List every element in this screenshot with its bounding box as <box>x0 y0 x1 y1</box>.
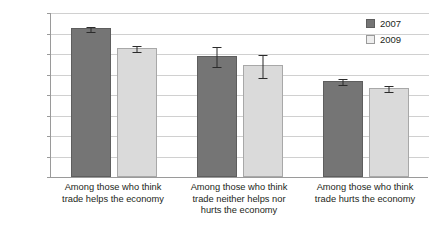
error-bar-2009-group1 <box>117 46 157 52</box>
error-bar-cap-lower <box>213 67 222 68</box>
error-bar-2007-group3 <box>323 79 363 86</box>
error-bar-cap-lower <box>385 92 394 93</box>
y-axis-tick <box>47 116 51 117</box>
legend-item-2009: 2009 <box>366 34 401 45</box>
bar-2007-group3 <box>323 81 363 177</box>
category-label-line: Among those who think <box>302 182 428 194</box>
gridline <box>51 13 429 14</box>
error-bar-line <box>263 55 264 78</box>
y-axis-tick <box>47 136 51 137</box>
error-bar-2009-group2 <box>243 55 283 78</box>
y-axis-tick <box>47 157 51 158</box>
y-axis-tick <box>47 177 51 178</box>
bar-2007-group1 <box>71 28 111 177</box>
bar-2007-group2 <box>197 56 237 177</box>
category-label-1: Among those who thinktrade helps the eco… <box>50 182 176 205</box>
bar-2009-group3 <box>369 88 409 177</box>
y-axis-tick <box>47 95 51 96</box>
legend-swatch-2009 <box>366 35 375 44</box>
category-label-line: hurts the economy <box>176 205 302 217</box>
error-bar-cap-upper <box>133 46 142 47</box>
bar-2009-group2 <box>243 65 283 177</box>
error-bar-cap-lower <box>87 32 96 33</box>
error-bar-cap-lower <box>339 85 348 86</box>
error-bar-2007-group1 <box>71 27 111 32</box>
legend-label-2009: 2009 <box>380 35 401 45</box>
bar-2009-group1 <box>117 48 157 177</box>
chart-legend: 2007 2009 <box>366 18 401 50</box>
error-bar-cap-upper <box>339 79 348 80</box>
error-bar-cap-upper <box>259 55 268 56</box>
category-label-line: trade hurts the economy <box>302 194 428 206</box>
category-label-line: Among those who think <box>176 182 302 194</box>
error-bar-2007-group2 <box>197 47 237 68</box>
error-bar-cap-upper <box>87 27 96 28</box>
y-axis-tick <box>47 34 51 35</box>
category-label-2: Among those who thinktrade neither helps… <box>176 182 302 217</box>
category-label-line: trade helps the economy <box>50 194 176 206</box>
error-bar-cap-upper <box>213 47 222 48</box>
error-bar-2009-group3 <box>369 86 409 92</box>
bar-chart: 0.80.70.60.50.40.30.20.10.0 Among those … <box>0 0 435 230</box>
category-label-3: Among those who thinktrade hurts the eco… <box>302 182 428 205</box>
error-bar-cap-lower <box>133 52 142 53</box>
y-axis-tick <box>47 75 51 76</box>
error-bar-cap-lower <box>259 78 268 79</box>
error-bar-cap-upper <box>385 86 394 87</box>
legend-swatch-2007 <box>366 19 375 28</box>
y-axis-tick <box>47 54 51 55</box>
category-label-line: trade neither helps nor <box>176 194 302 206</box>
category-label-line: Among those who think <box>50 182 176 194</box>
y-axis-tick <box>47 13 51 14</box>
error-bar-line <box>217 47 218 68</box>
legend-item-2007: 2007 <box>366 18 401 29</box>
legend-label-2007: 2007 <box>380 19 401 29</box>
